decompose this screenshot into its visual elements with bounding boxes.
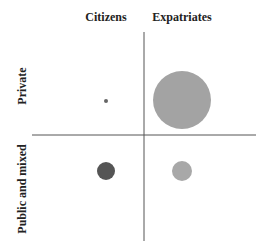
bubble-plot bbox=[0, 0, 265, 250]
bubble-citizens-private bbox=[104, 99, 108, 103]
bubble-citizens-public bbox=[97, 162, 115, 180]
bubble-expatriates-public bbox=[172, 161, 192, 181]
bubble-expatriates-private bbox=[153, 71, 211, 129]
